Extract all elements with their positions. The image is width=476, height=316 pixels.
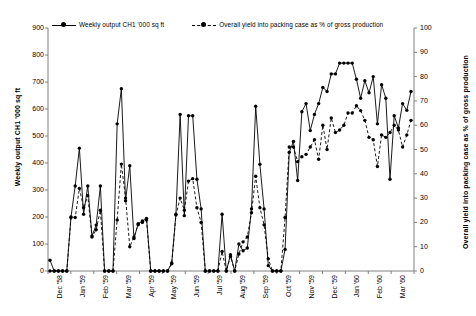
series-marker-weekly-output [153,269,156,272]
series-marker-overall-yield [220,250,223,253]
series-marker-weekly-output [346,61,349,64]
x-axis-tick-label: Mar '60 [399,275,407,315]
series-marker-weekly-output [199,207,202,210]
series-marker-weekly-output [86,184,89,187]
series-marker-overall-yield [372,138,375,141]
series-marker-weekly-output [162,269,165,272]
series-marker-overall-yield [409,119,412,122]
series-marker-overall-yield [99,209,102,212]
x-axis-tick-label: Jan '59 [79,275,87,315]
series-marker-weekly-output [292,140,295,143]
series-marker-weekly-output [107,269,110,272]
series-marker-weekly-output [128,164,131,167]
y-axis-left-tick-label: 900 [18,24,44,32]
series-marker-overall-yield [191,177,194,180]
series-marker-overall-yield [346,111,349,114]
series-marker-overall-yield [376,165,379,168]
series-marker-overall-yield [262,223,265,226]
series-marker-overall-yield [351,111,354,114]
y-axis-right-tick-label: 20 [420,218,446,226]
chart-container: Weekly output CH1 '000 sq ft Overall yie… [0,0,476,316]
x-axis-tick-label: Sep '59 [262,275,270,315]
x-axis-tick-label: Oct '59 [285,275,293,315]
x-axis-tick-label: Dec '58 [56,275,64,315]
series-marker-overall-yield [178,196,181,199]
series-marker-overall-yield [267,257,270,260]
series-marker-overall-yield [115,218,118,221]
series-marker-weekly-output [241,249,244,252]
series-marker-weekly-output [69,215,72,218]
series-marker-overall-yield [246,235,249,238]
series-marker-weekly-output [351,61,354,64]
series-marker-overall-yield [94,228,97,231]
series-marker-weekly-output [208,269,211,272]
series-marker-weekly-output [254,105,257,108]
series-marker-weekly-output [195,178,198,181]
series-marker-weekly-output [250,207,253,210]
series-marker-weekly-output [145,217,148,220]
y-axis-right-tick-label: 90 [420,48,446,56]
series-marker-weekly-output [262,207,265,210]
series-marker-overall-yield [304,153,307,156]
series-marker-weekly-output [304,102,307,105]
series-marker-weekly-output [401,102,404,105]
series-marker-weekly-output [271,269,274,272]
series-marker-overall-yield [86,194,89,197]
series-marker-overall-yield [317,158,320,161]
y-axis-left-tick-label: 500 [18,132,44,140]
series-marker-weekly-output [267,264,270,267]
y-axis-right-tick-label: 10 [420,243,446,251]
series-marker-weekly-output [384,97,387,100]
series-marker-overall-yield [359,109,362,112]
series-marker-overall-yield [300,155,303,158]
series-marker-weekly-output [220,213,223,216]
series-marker-weekly-output [90,234,93,237]
series-marker-overall-yield [283,216,286,219]
series-marker-weekly-output [78,146,81,149]
series-marker-overall-yield [363,119,366,122]
x-axis-tick-label: Feb '59 [102,275,110,315]
y-axis-right-tick-label: 40 [420,170,446,178]
series-marker-overall-yield [355,104,358,107]
series-marker-overall-yield [250,211,253,214]
series-marker-weekly-output [57,269,60,272]
series-marker-weekly-output [405,109,408,112]
x-axis-tick-label: Dec '59 [331,275,339,315]
series-marker-overall-yield [292,145,295,148]
series-marker-overall-yield [78,187,81,190]
series-marker-weekly-output [363,79,366,82]
series-marker-weekly-output [321,86,324,89]
y-axis-right-tick-label: 100 [420,24,446,32]
series-marker-weekly-output [300,110,303,113]
series-marker-weekly-output [115,122,118,125]
series-marker-weekly-output [229,253,232,256]
y-axis-right-tick-label: 50 [420,146,446,154]
series-marker-overall-yield [338,128,341,131]
series-marker-weekly-output [178,113,181,116]
series-marker-overall-yield [48,269,51,272]
series-marker-weekly-output [309,129,312,132]
series-marker-weekly-output [53,269,56,272]
series-marker-weekly-output [94,223,97,226]
series-marker-weekly-output [65,269,68,272]
series-marker-weekly-output [99,184,102,187]
series-marker-overall-yield [120,162,123,165]
series-marker-weekly-output [132,237,135,240]
series-marker-weekly-output [338,61,341,64]
x-axis-tick-label: Apr '59 [148,275,156,315]
y-axis-right-title: Overall yield into packing case as % of … [462,26,469,278]
series-marker-overall-yield [330,116,333,119]
series-marker-overall-yield [195,206,198,209]
series-marker-weekly-output [355,78,358,81]
series-marker-overall-yield [183,209,186,212]
series-marker-overall-yield [388,131,391,134]
series-marker-weekly-output [376,122,379,125]
series-marker-overall-yield [309,145,312,148]
series-marker-overall-yield [325,148,328,151]
series-marker-overall-yield [334,131,337,134]
x-axis-tick-label: Mar '59 [125,275,133,315]
series-marker-overall-yield [321,124,324,127]
plot-svg [48,28,414,271]
x-axis-tick-label: Feb '60 [376,275,384,315]
series-marker-weekly-output [170,261,173,264]
